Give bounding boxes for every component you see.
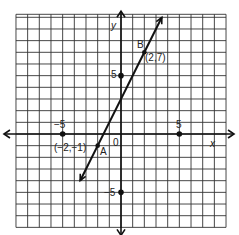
tick-dot — [61, 132, 65, 136]
y-axis-label: y — [110, 20, 117, 31]
x-axis-label: x — [209, 138, 216, 149]
y-tick-label-pos5: 5 — [111, 69, 117, 80]
coordinate-plane: x y 0 −5 5 5 −5 A (−2,−1) B (2,7) — [0, 0, 239, 235]
x-tick-label-pos5: 5 — [176, 119, 182, 130]
point-a-name: A — [100, 146, 107, 157]
point-b-coords: (2,7) — [145, 52, 166, 63]
tick-dot — [119, 190, 123, 194]
tick-dot — [177, 132, 181, 136]
axes — [4, 11, 234, 235]
x-tick-label-neg5: −5 — [54, 119, 66, 130]
tick-dot — [119, 74, 123, 78]
y-tick-label-neg5: −5 — [104, 187, 116, 198]
point-b-name: B — [137, 39, 144, 50]
origin-label: 0 — [113, 137, 119, 148]
point-a-coords: (−2,−1) — [54, 142, 86, 153]
